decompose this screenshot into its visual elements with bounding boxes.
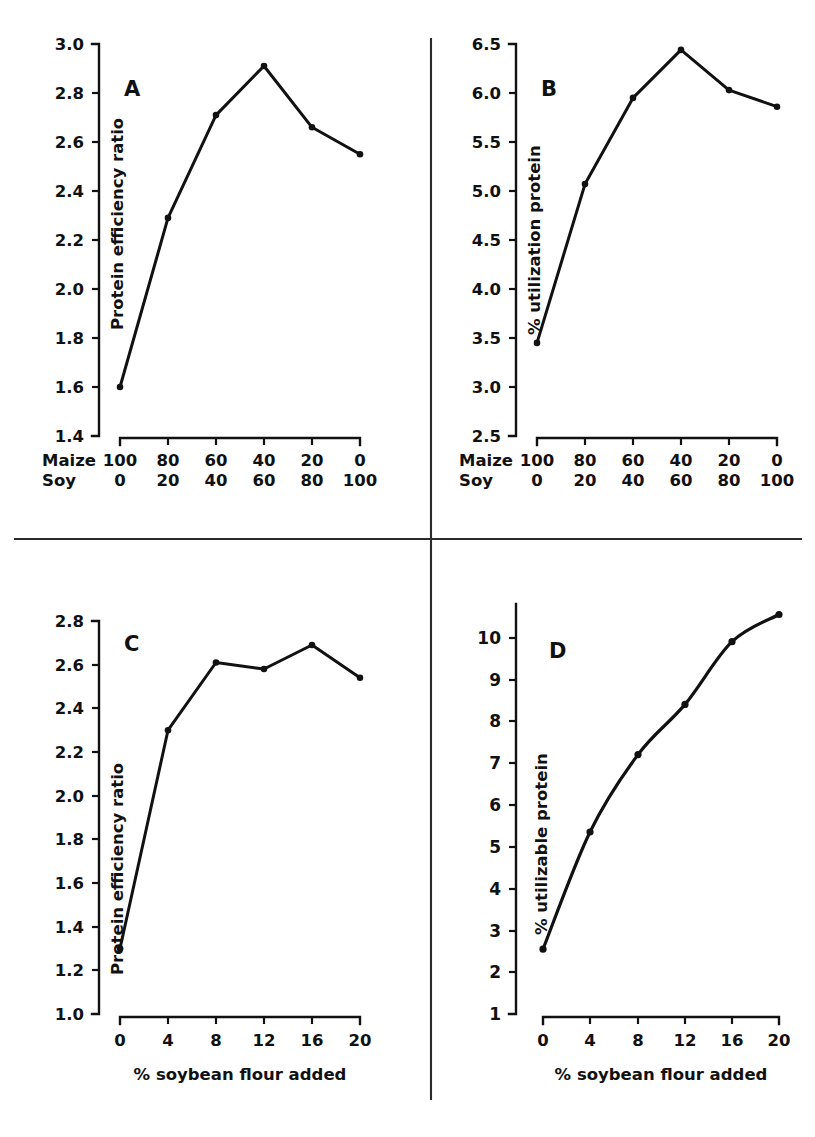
- panel-a-ytick-5: 2.0: [55, 280, 84, 299]
- data-point: [165, 215, 172, 222]
- panel-a: 3.0 2.8 2.6 2.4 2.2 2.0 1.8 1.6 1.4 Prot…: [42, 35, 377, 490]
- panel-c-ytick-4: 2.0: [55, 787, 84, 806]
- panel-a-soy-0: 0: [114, 471, 125, 490]
- panel-a-ytick-0: 3.0: [55, 35, 84, 54]
- data-point: [309, 642, 316, 649]
- panel-d-fitted-curve: [543, 615, 779, 950]
- panel-a-soy-3: 60: [253, 471, 276, 490]
- panel-a-ytick-6: 1.8: [55, 329, 84, 348]
- panel-d-ytick-4: 6: [489, 795, 501, 815]
- panel-b-ytick-7: 3.0: [472, 378, 501, 397]
- panel-a-maize-1: 80: [157, 451, 180, 470]
- panel-c-xtick-4: 16: [301, 1031, 324, 1050]
- panel-c-xtick-2: 8: [210, 1031, 221, 1050]
- panel-b-ytick-2: 5.5: [472, 133, 501, 152]
- panel-a-ytick-2: 2.6: [55, 133, 84, 152]
- panel-d-xtick-3: 12: [674, 1031, 697, 1050]
- panel-d-xtick-4: 16: [721, 1031, 744, 1050]
- data-point: [357, 675, 364, 682]
- panel-a-ytick-7: 1.6: [55, 378, 84, 397]
- panel-d-x-axis: [543, 1017, 779, 1024]
- data-point: [681, 701, 688, 708]
- panel-c-data-line: [120, 645, 360, 949]
- panel-a-soy-1: 20: [157, 471, 180, 490]
- panel-d-ytick-7: 3: [489, 921, 501, 941]
- panel-d-letter: D: [549, 639, 566, 663]
- panel-d-xtick-5: 20: [768, 1031, 791, 1050]
- data-point: [630, 95, 637, 102]
- panel-b-maize-1: 80: [574, 451, 597, 470]
- panel-d-xtick-0: 0: [537, 1031, 548, 1050]
- panel-b-y-axis-title: % utilization protein: [525, 145, 544, 335]
- panel-c-y-axis: [92, 621, 99, 1014]
- data-point: [261, 63, 268, 70]
- panel-b-maize-4: 20: [718, 451, 741, 470]
- panel-b: 6.5 6.0 5.5 5.0 4.5 4.0 3.5 3.0 2.5 % ut…: [459, 35, 794, 490]
- panel-c-ytick-0: 2.8: [55, 612, 84, 631]
- panel-d-ytick-0: 10: [477, 628, 501, 648]
- panel-c-x-axis: [120, 1017, 360, 1024]
- data-point: [534, 340, 541, 347]
- panel-b-row-label-maize: Maize: [459, 451, 513, 470]
- panel-a-maize-3: 40: [253, 451, 276, 470]
- panel-a-maize-5: 0: [354, 451, 365, 470]
- panel-c-xtick-1: 4: [162, 1031, 173, 1050]
- panel-b-maize-3: 40: [670, 451, 693, 470]
- panel-d: 10 9 8 7 6 5 4 3 2 1 % utilizable protei…: [477, 604, 790, 1084]
- panel-b-ytick-6: 3.5: [472, 329, 501, 348]
- data-point: [117, 384, 124, 391]
- panel-c-ytick-8: 1.2: [55, 961, 84, 980]
- panel-b-ytick-1: 6.0: [472, 84, 501, 103]
- panel-a-x-axis: [120, 438, 360, 445]
- panel-b-ytick-8: 2.5: [472, 427, 501, 446]
- panel-a-soy-4: 80: [301, 471, 324, 490]
- panel-d-x-axis-title: % soybean flour added: [555, 1065, 768, 1084]
- panel-d-data-points: [539, 611, 782, 953]
- panel-b-letter: B: [541, 77, 557, 101]
- panel-b-ytick-0: 6.5: [472, 35, 501, 54]
- panel-c-xtick-0: 0: [114, 1031, 125, 1050]
- panel-d-ytick-9: 1: [489, 1004, 501, 1024]
- panel-b-soy-4: 80: [718, 471, 741, 490]
- data-point: [261, 666, 268, 673]
- panel-c: 2.8 2.6 2.4 2.2 2.0 1.8 1.6 1.4 1.2 1.0 …: [55, 612, 372, 1084]
- panel-b-data-points: [534, 47, 781, 347]
- panel-c-ytick-9: 1.0: [55, 1005, 84, 1024]
- panel-d-ytick-2: 8: [489, 711, 501, 731]
- panel-b-soy-3: 60: [670, 471, 693, 490]
- panel-c-ytick-3: 2.2: [55, 743, 84, 762]
- data-point: [117, 945, 124, 952]
- panel-d-ytick-5: 5: [489, 837, 501, 857]
- data-point: [539, 946, 546, 953]
- data-point: [728, 638, 735, 645]
- panel-b-maize-2: 60: [622, 451, 645, 470]
- data-point: [774, 103, 781, 110]
- data-point: [678, 47, 685, 54]
- panel-b-soy-2: 40: [622, 471, 645, 490]
- panel-c-xtick-3: 12: [253, 1031, 276, 1050]
- panel-b-ytick-3: 5.0: [472, 182, 501, 201]
- data-point: [775, 611, 782, 618]
- panel-d-xtick-2: 8: [632, 1031, 643, 1050]
- panel-a-ytick-8: 1.4: [55, 427, 84, 446]
- data-point: [634, 751, 641, 758]
- panel-b-x-axis: [537, 438, 777, 445]
- panel-c-ytick-5: 1.8: [55, 830, 84, 849]
- data-point: [165, 727, 172, 734]
- panel-b-data-line: [537, 50, 777, 343]
- panel-c-ytick-6: 1.6: [55, 874, 84, 893]
- panel-d-ytick-6: 4: [489, 879, 501, 899]
- panel-a-row-label-maize: Maize: [42, 451, 96, 470]
- panel-b-ytick-4: 4.5: [472, 231, 501, 250]
- panel-b-maize-5: 0: [771, 451, 782, 470]
- panel-a-y-axis-title: Protein efficiency ratio: [108, 118, 127, 330]
- panel-a-maize-4: 20: [301, 451, 324, 470]
- data-point: [213, 659, 220, 666]
- panel-b-maize-0: 100: [520, 451, 554, 470]
- panel-b-row-label-soy: Soy: [459, 471, 493, 490]
- panel-c-letter: C: [124, 632, 139, 656]
- data-point: [726, 87, 733, 94]
- panel-a-ytick-4: 2.2: [55, 231, 84, 250]
- panel-c-ytick-2: 2.4: [55, 699, 84, 718]
- panel-b-ytick-5: 4.0: [472, 280, 501, 299]
